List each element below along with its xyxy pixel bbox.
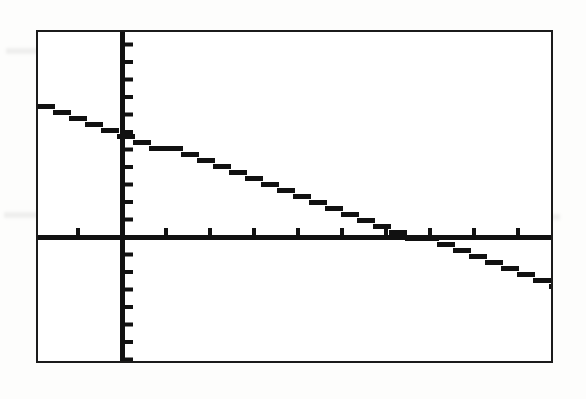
y-axis-tick — [125, 323, 133, 327]
y-axis-tick — [125, 270, 133, 274]
y-axis-tick — [125, 288, 133, 292]
plot-pixel-segment — [309, 200, 327, 205]
x-axis — [38, 228, 551, 240]
y-axis-tick — [125, 305, 133, 309]
plot-pixel-segment — [469, 254, 487, 259]
plot-pixel-segment — [197, 158, 215, 163]
y-axis-tick — [125, 78, 133, 82]
plot-pixel-segment — [261, 182, 279, 187]
y-axis-tick — [125, 95, 133, 99]
plot-pixel-segment — [101, 128, 119, 133]
y-axis-tick — [125, 130, 133, 134]
plot-pixel-segment — [117, 134, 135, 139]
plot-pixel-segment — [133, 140, 151, 145]
y-axis-tick — [125, 358, 133, 362]
plot-pixel-segment — [69, 116, 87, 121]
plot-pixel-segment — [85, 122, 103, 127]
plot-pixel-segment — [453, 248, 471, 253]
plot-pixel-segment — [501, 266, 519, 271]
plot-pixel-segment — [421, 236, 439, 241]
x-axis-tick — [516, 228, 520, 236]
y-axis-tick — [125, 148, 133, 152]
y-axis-ticks — [125, 43, 133, 362]
y-axis — [120, 32, 133, 361]
plot-pixel-segment — [373, 224, 391, 229]
plot-pixel-segment — [293, 194, 311, 199]
x-axis-tick — [296, 228, 300, 236]
plot-pixel-segment — [165, 146, 183, 151]
plot-pixel-segment — [181, 152, 199, 157]
y-axis-tick — [125, 113, 133, 117]
x-axis-tick — [340, 228, 344, 236]
plot-pixel-segment — [213, 164, 231, 169]
plot-pixel-segment — [549, 284, 551, 289]
plot-pixel-segment — [277, 188, 295, 193]
calculator-screen-frame — [36, 30, 553, 363]
y-axis-tick — [125, 253, 133, 257]
plot-pixel-segment — [405, 236, 423, 241]
x-axis-tick — [472, 228, 476, 236]
coordinate-plane-plot — [38, 32, 551, 361]
plot-pixel-segment — [389, 230, 407, 235]
y-axis-tick — [125, 200, 133, 204]
y-axis-tick — [125, 43, 133, 47]
y-axis-tick — [125, 340, 133, 344]
plot-pixel-segment — [245, 176, 263, 181]
plot-pixel-segment — [437, 242, 455, 247]
plot-pixel-segment — [149, 146, 167, 151]
x-axis-tick — [164, 228, 168, 236]
plot-pixel-segment — [325, 206, 343, 211]
plot-pixel-segment — [485, 260, 503, 265]
x-axis-tick — [428, 228, 432, 236]
y-axis-tick — [125, 60, 133, 64]
plot-area — [38, 32, 551, 361]
plot-pixel-segment — [38, 104, 55, 109]
x-axis-tick — [384, 228, 388, 236]
x-axis-ticks — [76, 228, 520, 236]
plot-pixel-segment — [229, 170, 247, 175]
plot-pixel-segment — [357, 218, 375, 223]
y-axis-tick — [125, 165, 133, 169]
x-axis-tick — [252, 228, 256, 236]
y-axis-tick — [125, 183, 133, 187]
x-axis-tick — [208, 228, 212, 236]
screenshot-root — [0, 0, 586, 399]
x-axis-tick — [76, 228, 80, 236]
y-axis-line — [120, 32, 125, 361]
plot-pixel-segment — [53, 110, 71, 115]
y-axis-tick — [125, 218, 133, 222]
plot-pixel-segment — [341, 212, 359, 217]
function-plot-y1 — [38, 104, 551, 289]
plot-pixel-segment — [517, 272, 535, 277]
plot-pixel-segment — [533, 278, 551, 283]
